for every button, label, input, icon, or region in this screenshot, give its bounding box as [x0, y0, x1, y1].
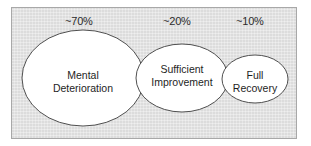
- label-mental-deterioration-line2: Deterioration: [33, 82, 133, 95]
- figure-root: ~70% ~20% ~10% Mental Deterioration Suff…: [0, 0, 311, 146]
- label-sufficient-improvement: Sufficient Improvement: [137, 63, 227, 88]
- percent-label-mental-deterioration: ~70%: [65, 15, 93, 27]
- label-sufficient-improvement-line1: Sufficient: [137, 63, 227, 76]
- label-mental-deterioration-line1: Mental: [33, 69, 133, 82]
- label-mental-deterioration: Mental Deterioration: [33, 69, 133, 94]
- percent-label-sufficient-improvement: ~20%: [163, 15, 191, 27]
- label-full-recovery-line1: Full: [222, 69, 288, 82]
- label-full-recovery-line2: Recovery: [222, 82, 288, 95]
- percent-label-full-recovery: ~10%: [236, 15, 264, 27]
- label-full-recovery: Full Recovery: [222, 69, 288, 94]
- label-sufficient-improvement-line2: Improvement: [137, 76, 227, 89]
